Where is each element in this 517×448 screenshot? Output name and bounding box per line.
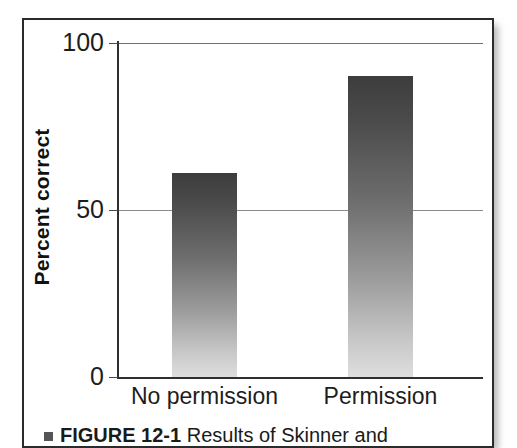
figure-caption-body: Results of Skinner and bbox=[187, 424, 388, 446]
figure-caption: FIGURE 12-1 Results of Skinner and bbox=[44, 424, 474, 447]
figure-caption-label: FIGURE 12-1 bbox=[60, 424, 181, 446]
square-bullet-icon bbox=[44, 432, 53, 441]
figure-panel bbox=[22, 18, 494, 448]
